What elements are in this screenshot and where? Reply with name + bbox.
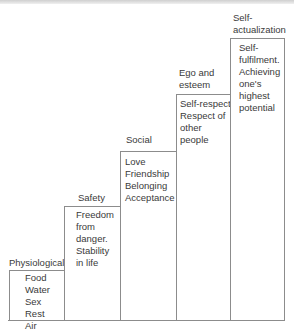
step-content-self-actualization: Self- fulfilment. Achieving one's highes… [239, 42, 280, 114]
top-edge [0, 0, 294, 4]
step-label-social: Social [126, 134, 152, 146]
baseline [8, 320, 285, 321]
step-label-ego-esteem: Ego and esteem [179, 67, 214, 91]
step-label-physiological: Physiological [9, 257, 64, 269]
step-content-safety: Freedom from danger. Stability in life [76, 209, 114, 269]
step-label-self-actualization: Self- actualization [233, 12, 286, 36]
step-content-ego-esteem: Self-respect. Respect of other people [180, 98, 233, 146]
step-content-social: Love Friendship Belonging Acceptance [125, 156, 175, 204]
step-content-physiological: Food Water Sex Rest Air [25, 272, 50, 332]
step-label-safety: Safety [78, 192, 105, 204]
